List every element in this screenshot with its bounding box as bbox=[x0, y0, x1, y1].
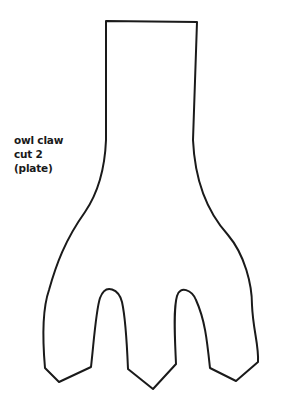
owl-claw-outline bbox=[0, 0, 282, 418]
claw-path bbox=[44, 21, 259, 389]
